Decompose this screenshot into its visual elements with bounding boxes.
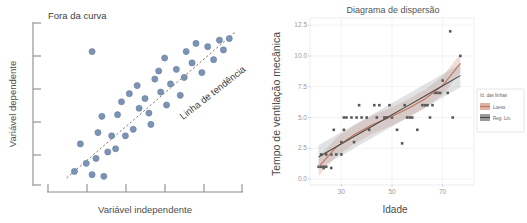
right-y-axis-title: Tempo de ventilação mecânica — [270, 32, 282, 176]
outlier-annotation-label: Fora da curva — [48, 10, 107, 21]
x-tick-label: 50 — [388, 188, 396, 195]
legend-title: Id. das linhas — [480, 93, 508, 98]
trendline-annotation-label: Linha de tendência — [177, 63, 248, 122]
y-tick-label: 7.5 — [298, 83, 307, 90]
y-tick-label: 0.0 — [298, 175, 307, 182]
right-x-tick-labels: 305070 — [338, 184, 447, 195]
left-scatter-svg: Fora da curva Linha de tendência Variáve… — [0, 0, 263, 223]
right-chart-title: Diagrama de dispersão — [346, 5, 439, 15]
right-x-axis-title: Idade — [382, 204, 407, 215]
left-y-ticks — [33, 23, 41, 185]
right-y-tick-labels: 0.02.55.07.510.012.5 — [294, 21, 311, 182]
left-y-axis-title: Variável dependente — [7, 61, 18, 147]
right-scatter-svg: 0.02.55.07.510.012.5 305070 Diagrama de … — [263, 0, 527, 223]
y-tick-label: 12.5 — [294, 21, 307, 28]
x-tick-label: 30 — [338, 188, 346, 195]
left-outlier-point — [89, 48, 95, 54]
x-tick-label: 70 — [439, 188, 447, 195]
legend-label: Reg. Lin. — [493, 116, 511, 121]
y-tick-label: 2.5 — [298, 144, 307, 151]
legend-entry[interactable]: Reg. Lin. — [480, 114, 511, 121]
legend-entry[interactable]: Loess — [480, 103, 506, 110]
left-chart-panel: Fora da curva Linha de tendência Variáve… — [0, 0, 263, 223]
y-tick-label: 10.0 — [294, 52, 307, 59]
left-data-points — [71, 35, 232, 179]
scatterplot-figure-pair: Fora da curva Linha de tendência Variáve… — [0, 0, 527, 223]
right-legend[interactable]: Id. das linhas LoessReg. Lin. — [477, 89, 524, 132]
left-x-axis-title: Variável independente — [98, 204, 192, 215]
left-x-ticks — [48, 184, 242, 192]
y-tick-label: 5.0 — [298, 114, 307, 121]
right-chart-panel: 0.02.55.07.510.012.5 305070 Diagrama de … — [263, 0, 527, 223]
legend-label: Loess — [493, 105, 506, 110]
